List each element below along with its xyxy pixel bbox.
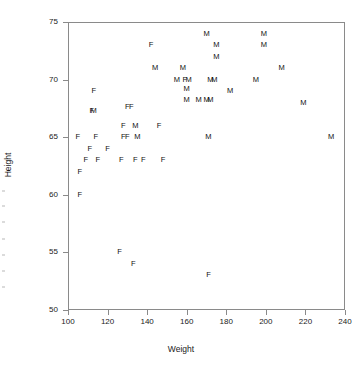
data-point-m: M [326,133,336,141]
data-point-f: F [128,260,138,268]
scatter-plot-figure: Height Weight 50556065707510012014016018… [0,0,362,371]
data-point-m: M [205,96,215,104]
data-point-m: M [178,64,188,72]
x-axis-tick-label: 160 [172,318,202,326]
data-point-m: M [202,30,212,38]
data-point-m: M [251,76,261,84]
data-point-m: M [225,87,235,95]
y-axis-tick-label: 75 [30,18,58,26]
x-axis-tick-label: 220 [290,318,320,326]
data-point-m: M [211,53,221,61]
plot-area [68,22,345,310]
data-point-f: F [203,271,213,279]
data-point-f: F [158,156,168,164]
x-axis-tick [187,310,188,315]
data-point-m: M [209,76,219,84]
x-axis-tick-label: 240 [330,318,360,326]
data-point-m: M [203,133,213,141]
y-axis-tick [63,80,68,81]
x-axis-tick [147,310,148,315]
data-point-f: F [81,156,91,164]
data-point-m: M [182,96,192,104]
x-axis-tick-label: 140 [132,318,162,326]
x-axis-tick [226,310,227,315]
data-point-f: F [138,156,148,164]
y-axis-tick-label: 70 [30,76,58,84]
data-point-f: F [91,133,101,141]
x-axis-label: Weight [0,344,362,354]
data-point-f: F [75,191,85,199]
x-axis-tick-label: 100 [53,318,83,326]
y-axis-tick-label: 50 [30,306,58,314]
data-point-f: F [122,133,132,141]
data-point-m: M [130,122,140,130]
y-axis-tick-label: 55 [30,248,58,256]
data-point-f: F [85,145,95,153]
data-point-f: F [118,122,128,130]
y-axis-tick [63,22,68,23]
data-point-f: F [75,168,85,176]
data-point-f: F [114,248,124,256]
y-axis-tick-label: 65 [30,133,58,141]
data-point-m: M [184,76,194,84]
data-point-m: M [132,133,142,141]
y-axis-label: Height [3,135,13,195]
y-axis-tick [63,137,68,138]
data-point-m: M [259,30,269,38]
x-axis-tick [305,310,306,315]
x-axis-tick [345,310,346,315]
x-axis-tick-label: 120 [93,318,123,326]
x-axis-tick-label: 200 [251,318,281,326]
data-point-m: M [277,64,287,72]
data-point-m: M [150,64,160,72]
data-point-m: M [172,76,182,84]
data-point-f: F [116,156,126,164]
data-point-m: M [182,85,192,93]
data-point-f: F [73,133,83,141]
x-axis-tick-label: 180 [211,318,241,326]
y-axis-tick [63,195,68,196]
data-point-f: F [103,145,113,153]
data-point-f: F [126,103,136,111]
data-point-m: M [259,41,269,49]
x-axis-tick [266,310,267,315]
data-point-f: F [93,156,103,164]
y-axis-tick-label: 60 [30,191,58,199]
y-axis-tick [63,252,68,253]
data-point-f: F [154,122,164,130]
data-point-m: M [89,107,99,115]
data-point-f: F [146,41,156,49]
x-axis-tick [108,310,109,315]
x-axis-tick [68,310,69,315]
data-point-m: M [211,41,221,49]
data-point-m: M [298,99,308,107]
data-point-f: F [89,87,99,95]
